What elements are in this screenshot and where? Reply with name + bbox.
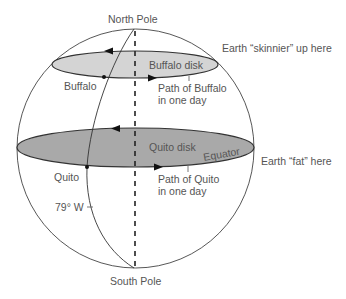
path-of-quito-label-line1: Path of Quito — [158, 173, 219, 185]
earth-fat-label: Earth “fat” here — [261, 155, 332, 167]
earth-skinnier-label: Earth “skinnier” up here — [222, 42, 332, 54]
earth-rotation-diagram: North Pole South Pole Earth “skinnier” u… — [0, 0, 346, 299]
buffalo-location-dot — [102, 75, 106, 79]
north-pole-label: North Pole — [108, 13, 158, 25]
buffalo-disk-label: Buffalo disk — [149, 59, 204, 71]
quito-disk-label: Quito disk — [149, 141, 196, 153]
quito-label: Quito — [54, 171, 79, 183]
path-of-quito-label-line2: in one day — [158, 185, 207, 197]
path-of-buffalo-label-line1: Path of Buffalo — [158, 82, 227, 94]
buffalo-label: Buffalo — [64, 80, 97, 92]
longitude-79w-label: 79° W — [55, 201, 84, 213]
quito-location-dot — [85, 165, 89, 169]
south-pole-label: South Pole — [110, 275, 162, 287]
path-of-buffalo-label-line2: in one day — [158, 94, 207, 106]
